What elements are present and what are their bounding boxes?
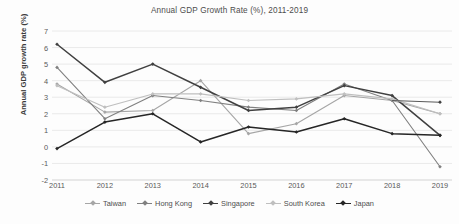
- x-axis-ticks: 201120122013201420152016201720182019: [0, 181, 459, 195]
- legend-marker-icon: [336, 200, 351, 207]
- legend-item-taiwan[interactable]: Taiwan: [85, 199, 126, 208]
- x-tick-label: 2016: [288, 181, 304, 190]
- series-japan: [55, 112, 442, 150]
- data-point: [438, 112, 442, 116]
- data-point: [342, 117, 346, 121]
- legend-label: Singapore: [221, 199, 255, 208]
- legend-item-singapore[interactable]: Singapore: [203, 199, 255, 208]
- series-line: [57, 44, 440, 135]
- legend-label: Hong Kong: [155, 199, 192, 208]
- x-tick-label: 2015: [240, 181, 256, 190]
- x-tick-label: 2017: [336, 181, 352, 190]
- x-tick-label: 2019: [432, 181, 448, 190]
- x-tick-label: 2018: [384, 181, 400, 190]
- data-point: [247, 125, 251, 129]
- line-chart: Annual GDP Growth Rate (%), 2011-2019 An…: [0, 0, 459, 224]
- legend-marker-icon: [266, 200, 281, 207]
- legend-item-hong-kong[interactable]: Hong Kong: [137, 199, 192, 208]
- legend-label: Taiwan: [103, 199, 126, 208]
- legend-item-japan[interactable]: Japan: [336, 199, 374, 208]
- legend-label: South Korea: [284, 199, 325, 208]
- x-tick-label: 2012: [97, 181, 113, 190]
- data-point: [247, 105, 251, 109]
- series-singapore: [55, 42, 442, 137]
- legend-marker-icon: [137, 200, 152, 207]
- data-point: [199, 92, 203, 96]
- x-tick-label: 2013: [145, 181, 161, 190]
- data-point: [438, 100, 442, 104]
- series-line: [57, 114, 440, 149]
- series-layer: [55, 42, 442, 168]
- legend-marker-icon: [85, 200, 100, 207]
- series-line: [57, 67, 440, 166]
- legend-item-south-korea[interactable]: South Korea: [266, 199, 325, 208]
- legend-label: Japan: [354, 199, 374, 208]
- data-point: [390, 132, 394, 136]
- data-point: [103, 105, 107, 109]
- data-point: [199, 99, 203, 103]
- data-point: [247, 99, 251, 103]
- x-tick-label: 2014: [192, 181, 208, 190]
- chart-legend: TaiwanHong KongSingaporeSouth KoreaJapan: [0, 199, 459, 208]
- legend-marker-icon: [203, 200, 218, 207]
- x-tick-label: 2011: [49, 181, 65, 190]
